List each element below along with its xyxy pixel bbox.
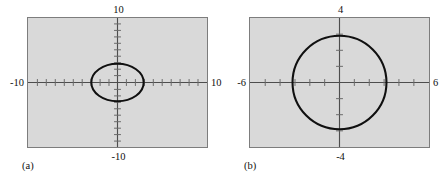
panel-caption-b: (b)	[244, 160, 256, 171]
right-label-holder-b: 6	[433, 0, 445, 183]
calculator-screen-a: 10 -10	[27, 17, 208, 148]
x-axis-max-label-b: 6	[433, 77, 438, 88]
y-axis-max-label-b: 4	[250, 4, 431, 15]
calculator-screen-b: 4 -4	[249, 17, 430, 148]
x-axis-max-label-a: 10	[211, 77, 222, 88]
y-axis-max-label-a: 10	[28, 4, 209, 15]
y-axis-min-label-b: -4	[250, 151, 431, 162]
left-label-holder-b: -6	[222, 0, 246, 183]
plot-panel-a: -10 10 10 -10	[0, 0, 223, 183]
plot-svg-b	[250, 18, 429, 147]
x-axis-min-label-a: -10	[10, 77, 24, 88]
plot-panel-b: -6 6 4 -4	[222, 0, 445, 183]
figure-container: -10 10 10 -10	[0, 0, 445, 183]
y-axis-min-label-a: -10	[28, 151, 209, 162]
panel-caption-a: (a)	[22, 160, 34, 171]
left-label-holder-a: -10	[0, 0, 24, 183]
plot-svg-a	[28, 18, 207, 147]
x-axis-min-label-b: -6	[237, 77, 246, 88]
